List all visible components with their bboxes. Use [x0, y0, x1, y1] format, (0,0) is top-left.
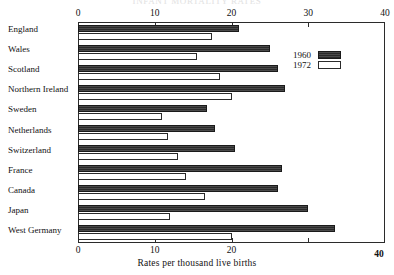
tick-bottom-30	[308, 238, 309, 243]
x-axis-title: Rates per thousand live births	[0, 258, 394, 268]
chart-title: INFANT MORTALITY RATES	[0, 0, 394, 4]
x-tick-label-top-40: 40	[380, 8, 390, 18]
bar-1960-wales	[78, 45, 270, 52]
bar-1972-northern-ireland	[78, 93, 232, 100]
category-label-scotland: Scotland	[8, 64, 72, 74]
legend-swatch-1972	[318, 61, 341, 69]
bar-1972-sweden	[78, 113, 162, 120]
bar-1960-scotland	[78, 65, 278, 72]
category-label-sweden: Sweden	[8, 104, 72, 114]
bar-1972-france	[78, 173, 186, 180]
bar-1972-west-germany	[78, 233, 232, 240]
category-label-france: France	[8, 165, 72, 175]
bar-1960-canada	[78, 185, 278, 192]
x-tick-label-top-30: 30	[304, 8, 314, 18]
x-axis-bottom-ticklabels: 0102040	[0, 245, 394, 256]
x-tick-label-bottom-0: 0	[76, 245, 81, 255]
bar-1972-scotland	[78, 73, 220, 80]
bar-1960-west-germany	[78, 225, 335, 232]
category-label-west-germany: West Germany	[8, 225, 72, 235]
x-tick-label-bottom-20: 20	[227, 245, 237, 255]
bar-1972-wales	[78, 53, 197, 60]
bar-1972-switzerland	[78, 153, 178, 160]
x-tick-label-top-0: 0	[76, 8, 81, 18]
category-label-netherlands: Netherlands	[8, 125, 72, 135]
bar-1972-netherlands	[78, 133, 168, 140]
legend-swatch-1960	[318, 51, 341, 59]
category-label-switzerland: Switzerland	[8, 145, 72, 155]
bar-1972-england	[78, 33, 212, 40]
bar-1960-switzerland	[78, 145, 235, 152]
category-label-england: England	[8, 24, 72, 34]
infant-mortality-bar-chart: INFANT MORTALITY RATES 010203040 0102040…	[0, 0, 394, 275]
bar-1960-japan	[78, 205, 308, 212]
category-label-wales: Wales	[8, 44, 72, 54]
legend-label-1960: 1960	[293, 51, 311, 60]
x-tick-label-top-10: 10	[150, 8, 160, 18]
x-tick-label-top-20: 20	[227, 8, 237, 18]
category-label-canada: Canada	[8, 185, 72, 195]
legend-label-1972: 1972	[293, 61, 311, 70]
x-tick-label-bottom-10: 10	[150, 245, 160, 255]
bar-1960-netherlands	[78, 125, 215, 132]
bar-1960-northern-ireland	[78, 85, 285, 92]
category-label-northern-ireland: Northern Ireland	[8, 84, 72, 94]
bar-1972-japan	[78, 213, 170, 220]
x-axis-top-ticklabels: 010203040	[0, 8, 394, 19]
tick-bottom-20	[232, 238, 233, 243]
bar-1960-england	[78, 25, 239, 32]
tick-top-30	[308, 22, 309, 27]
bar-1972-canada	[78, 193, 205, 200]
bar-1960-france	[78, 165, 282, 172]
category-label-japan: Japan	[8, 205, 72, 215]
bar-1960-sweden	[78, 105, 207, 112]
